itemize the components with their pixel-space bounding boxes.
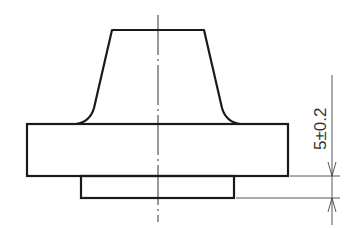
dimension-label: 5±0.2	[311, 108, 330, 150]
technical-drawing: 5±0.2	[0, 0, 358, 228]
